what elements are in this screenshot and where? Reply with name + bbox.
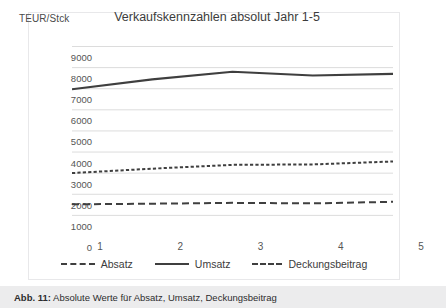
figure-container: TEUR/Stck Verkaufskennzahlen absolut Jah… xyxy=(0,0,446,308)
series-lines xyxy=(72,72,393,205)
x-tick-label: 1 xyxy=(85,241,115,252)
legend-item-deckungsbeitrag[interactable]: Deckungsbeitrag xyxy=(252,258,367,270)
x-tick-label: 5 xyxy=(406,241,436,252)
chart-legend: AbsatzUmsatzDeckungsbeitrag xyxy=(28,258,400,270)
figure-caption: Abb. 11: Absolute Werte für Absatz, Umsa… xyxy=(14,292,277,303)
series-line-deckungsbeitrag xyxy=(72,161,393,173)
legend-label: Absatz xyxy=(101,258,133,270)
legend-swatch-icon xyxy=(252,263,282,265)
y-axis-title: TEUR/Stck xyxy=(19,13,69,24)
plot-area xyxy=(72,46,393,236)
x-tick-label: 4 xyxy=(326,241,356,252)
legend-item-absatz[interactable]: Absatz xyxy=(61,258,133,270)
caption-number: Abb. 11: xyxy=(14,292,51,303)
legend-label: Deckungsbeitrag xyxy=(288,258,367,270)
chart-title: Verkaufskennzahlen absolut Jahr 1-5 xyxy=(92,10,342,24)
legend-swatch-icon xyxy=(155,263,189,265)
series-line-umsatz xyxy=(72,72,393,90)
legend-item-umsatz[interactable]: Umsatz xyxy=(155,258,231,270)
legend-label: Umsatz xyxy=(195,258,231,270)
caption-body: Absolute Werte für Absatz, Umsatz, Decku… xyxy=(51,292,277,303)
legend-swatch-icon xyxy=(61,263,95,265)
series-line-absatz xyxy=(72,202,393,205)
x-tick-label: 2 xyxy=(165,241,195,252)
line-chart-svg xyxy=(72,46,393,236)
x-tick-label: 3 xyxy=(246,241,276,252)
